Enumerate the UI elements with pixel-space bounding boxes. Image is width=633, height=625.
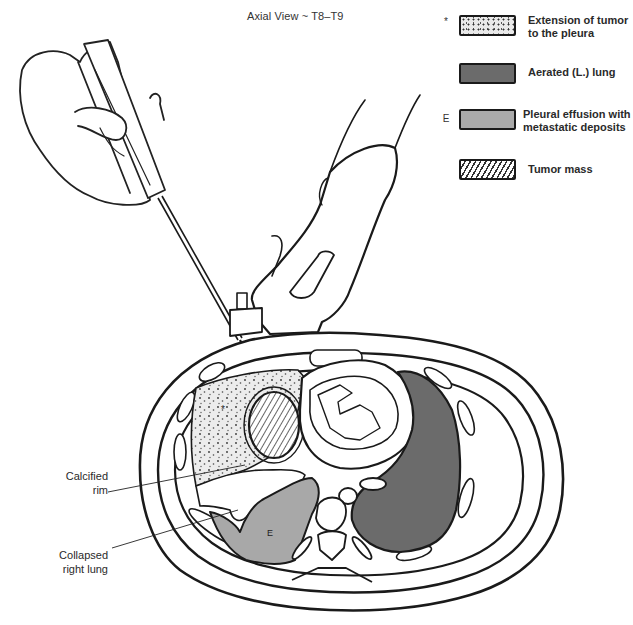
effusion-marker: E [267, 528, 273, 538]
legend-marker: * [440, 16, 452, 27]
thorax-cross-section [140, 333, 563, 611]
legend-label: Tumor mass [528, 163, 593, 176]
left-hand-syringe [20, 40, 165, 205]
tumor-mass [249, 392, 299, 458]
light-gray-swatch-icon [459, 109, 516, 130]
legend-item-pleural-extension: * Extension of tumor to the pleura [440, 12, 633, 46]
legend-label: Pleural effusion with metastatic deposit… [523, 108, 631, 134]
heart [300, 360, 417, 468]
hatched-swatch-icon [459, 159, 516, 180]
legend-label: Aerated (L.) lung [528, 66, 615, 79]
legend-item-tumor-mass: Tumor mass [440, 156, 633, 190]
dark-gray-swatch-icon [459, 63, 516, 84]
legend-item-pleural-effusion: E Pleural effusion with metastatic depos… [440, 106, 633, 140]
legend-label: Extension of tumor to the pleura [528, 14, 628, 40]
legend-marker: E [440, 113, 452, 124]
right-hand [230, 95, 420, 336]
dotted-swatch-icon [459, 15, 516, 36]
legend-item-aerated-lung: Aerated (L.) lung [440, 60, 633, 94]
pleura-marker: * [221, 404, 225, 415]
callout-calcified-rim: Calcified rim [58, 469, 108, 497]
callout-collapsed-right-lung: Collapsed right lung [36, 548, 108, 576]
